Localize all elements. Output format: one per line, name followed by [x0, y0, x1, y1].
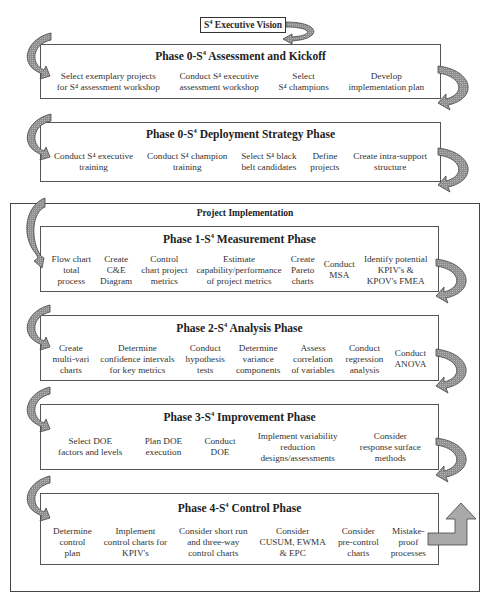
phase-step: ConductMSA: [324, 259, 355, 281]
step-line: total: [52, 265, 92, 276]
phase-box: Phase 2-S4 Analysis PhaseCreatemulti-var…: [40, 315, 439, 381]
phase-step: Consider short runand three-waycontrol c…: [179, 526, 247, 559]
phase-step: Assesscorrelationof variables: [291, 343, 334, 376]
step-line: MSA: [324, 270, 355, 281]
phase-step: Considerresponse surfacemethods: [360, 431, 421, 464]
step-line: Pareto: [291, 265, 315, 276]
step-line: projects: [310, 162, 339, 173]
step-line: Create intra-support: [353, 151, 427, 162]
step-line: variance: [236, 354, 280, 365]
phase-step: Flow charttotalprocess: [52, 254, 92, 287]
phase-title: Phase 4-S4 Control Phase: [41, 502, 438, 514]
phase-step: Implementcontrol charts forKPIV's: [104, 526, 167, 559]
phase-step: Plan DOEexecution: [145, 436, 183, 458]
step-line: Select exemplary projects: [57, 71, 160, 82]
step-line: multi-vari: [53, 354, 90, 365]
step-line: processes: [391, 548, 426, 559]
phase-step: Determineconfidence intervalsfor key met…: [100, 343, 174, 376]
step-line: C&E: [100, 265, 132, 276]
project-implementation-title: Project Implementation: [11, 208, 479, 218]
phase-step: CreateC&EDiagram: [100, 254, 132, 287]
step-line: capability/performance: [197, 265, 282, 276]
step-line: CUSUM, EWMA: [260, 537, 326, 548]
phase-step: Conduct S⁴ executivetraining: [54, 151, 133, 173]
step-line: Diagram: [100, 276, 132, 287]
step-line: Mistake-: [391, 526, 426, 537]
phase-steps: Createmulti-varichartsDetermineconfidenc…: [41, 340, 438, 378]
step-line: regression: [346, 354, 384, 365]
phase-box: Phase 0-S4 Assessment and KickoffSelect …: [40, 44, 441, 99]
phase-step: Create intra-supportstructure: [353, 151, 427, 173]
phase-steps: DeterminecontrolplanImplementcontrol cha…: [41, 522, 438, 562]
step-line: response surface: [360, 442, 421, 453]
step-line: components: [236, 365, 280, 376]
step-line: factors and levels: [58, 447, 122, 458]
step-line: Consider: [338, 526, 379, 537]
step-line: Consider short run: [179, 526, 247, 537]
step-line: Conduct S⁴ champion: [147, 151, 227, 162]
executive-vision-label: Executive Vision: [212, 20, 282, 30]
phase-title: Phase 3-S4 Improvement Phase: [41, 411, 438, 423]
step-line: methods: [360, 453, 421, 464]
step-line: & EPC: [260, 548, 326, 559]
step-line: Assess: [291, 343, 334, 354]
step-line: Conduct S⁴ executive: [179, 71, 258, 82]
phase-step: ConductDOE: [204, 436, 235, 458]
step-line: Conduct: [186, 343, 225, 354]
right-curl-arrow-icon: [438, 148, 468, 192]
step-line: process: [52, 276, 92, 287]
step-line: control charts: [179, 548, 247, 559]
step-line: Control: [141, 254, 187, 265]
step-line: Conduct: [204, 436, 235, 447]
step-line: Select DOE: [58, 436, 122, 447]
step-line: KPIV's: [104, 548, 167, 559]
phase-box: Phase 0-S4 Deployment Strategy PhaseCond…: [40, 122, 441, 182]
curved-arrow-icon: [283, 22, 314, 44]
step-line: control charts for: [104, 537, 167, 548]
step-line: Conduct: [324, 259, 355, 270]
phase-step: Conducthypothesistests: [186, 343, 225, 376]
phase-step: ConsiderCUSUM, EWMA& EPC: [260, 526, 326, 559]
step-line: Conduct: [346, 343, 384, 354]
phase-step: Determinevariancecomponents: [236, 343, 280, 376]
step-line: metrics: [141, 276, 187, 287]
step-line: belt candidates: [241, 162, 296, 173]
phase-step: Defineprojects: [310, 151, 339, 173]
step-line: of project metrics: [197, 276, 282, 287]
step-line: analysis: [346, 365, 384, 376]
step-line: Conduct S⁴ executive: [54, 151, 133, 162]
step-line: Define: [310, 151, 339, 162]
step-line: Conduct: [394, 348, 426, 359]
step-line: DOE: [204, 447, 235, 458]
step-line: hypothesis: [186, 354, 225, 365]
step-line: ANOVA: [394, 359, 426, 370]
phase-step: Conductregressionanalysis: [346, 343, 384, 376]
step-line: tests: [186, 365, 225, 376]
step-line: KPOV's FMEA: [364, 276, 428, 287]
step-line: Select S⁴ black: [241, 151, 296, 162]
phase-box: Phase 4-S4 Control PhaseDeterminecontrol…: [40, 493, 439, 565]
phase-step: SelectS⁴ champions: [278, 71, 328, 93]
step-line: Consider: [260, 526, 326, 537]
step-line: of variables: [291, 365, 334, 376]
phase-step: Controlchart projectmetrics: [141, 254, 187, 287]
step-line: structure: [353, 162, 427, 173]
phase-steps: Flow charttotalprocessCreateC&EDiagramCo…: [41, 251, 438, 289]
step-line: Flow chart: [52, 254, 92, 265]
step-line: correlation: [291, 354, 334, 365]
phase-step: Mistake-proofprocesses: [391, 526, 426, 559]
step-line: control: [53, 537, 92, 548]
step-line: implementation plan: [348, 82, 424, 93]
phase-step: CreateParetocharts: [291, 254, 315, 287]
step-line: charts: [53, 365, 90, 376]
right-curl-arrow-icon: [438, 66, 468, 110]
step-line: Create: [291, 254, 315, 265]
phase-title: Phase 1-S4 Measurement Phase: [41, 233, 438, 245]
phase-step: Determinecontrolplan: [53, 526, 92, 559]
phase-steps: Select DOEfactors and levelsPlan DOEexec…: [41, 427, 438, 467]
step-line: Implement variability: [258, 431, 338, 442]
step-line: Create: [100, 254, 132, 265]
step-line: training: [54, 162, 133, 173]
step-line: Determine: [100, 343, 174, 354]
step-line: pre-control: [338, 537, 379, 548]
